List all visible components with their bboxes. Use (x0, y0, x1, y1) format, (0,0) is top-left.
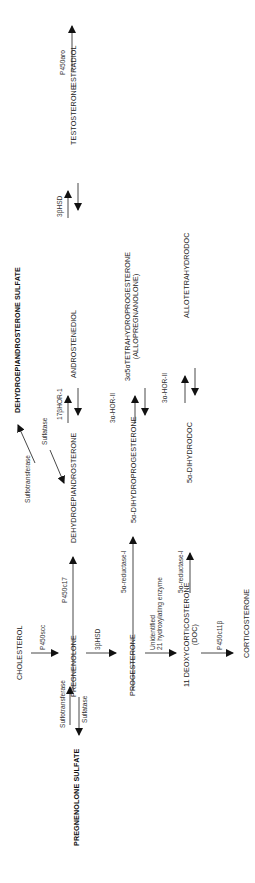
node-doc-line2: (DOC) (191, 582, 198, 687)
enzyme-3ahor-ii-prog: 3α-HOR-II (110, 393, 117, 423)
enzyme-unidentified-line2: 21 hydroxylating enzyme (157, 577, 164, 650)
node-estradiol: ESTRADIOL (70, 45, 77, 87)
node-progesterone: PROGESTERONE (129, 634, 136, 696)
steroid-pathway-diagram: CHOLESTEROL PREGNENOLONE PROGESTERONE 11… (0, 0, 255, 883)
enzyme-sulfatase-preg: Sulfatase (82, 696, 89, 724)
node-pregnenolone-sulfate: PREGNENOLONE SULFATE (73, 749, 80, 846)
arrows-layer (0, 0, 255, 883)
arrow-dheas-to-dhea (50, 450, 64, 483)
node-dihydroprogesterone: 5α-DIHYDROPROGESTERONE (130, 416, 137, 523)
node-corticosterone: CORTICOSTERONE (243, 589, 250, 658)
node-pregnenolone: PREGNENOLONE (70, 635, 77, 697)
enzyme-17bhor-1: 17βHOR-1 (57, 388, 64, 420)
enzyme-5a-reductase-doc: 5α-reductase-I (178, 550, 185, 593)
enzyme-p450aro: P450aro (60, 50, 67, 75)
node-dhea-sulfate: DEHYDROEPIANDROSTERONE SULFATE (14, 267, 21, 413)
node-allopregnanolone-line2: (ALLOPREGNANOLONE) (132, 252, 139, 381)
node-doc: 11 DEOXYCORTICOSTERONE (DOC) (183, 582, 198, 687)
enzyme-unidentified: Unidentified 21 hydroxylating enzyme (150, 577, 164, 650)
enzyme-p450scc: P450scc (40, 625, 47, 650)
enzyme-sulfotransferase-preg: Sulfotransferase (60, 680, 67, 728)
node-dhea: DEHYDROEPIANDROSTERONE (70, 433, 77, 543)
node-dihydrodoc: 5α-DIHYDRODOC (186, 422, 193, 483)
enzyme-3ahor-ii-doc: 3α-HOR-II (162, 373, 169, 403)
enzyme-p450c11b: P450c11β (217, 621, 224, 650)
node-androstenediol: ANDROSTENEDIOL (70, 310, 77, 378)
node-allopregnanolone: 3α5αTETRAHYDROPROGESTERONE (ALLOPREGNANO… (124, 252, 139, 381)
enzyme-3bhsd-2: 3βHSD (57, 196, 64, 217)
node-allopregnanolone-line1: 3α5αTETRAHYDROPROGESTERONE (124, 252, 131, 381)
enzyme-sulfatase-dhea: Sulfatase (42, 418, 49, 446)
enzyme-p450c17: P450c17 (62, 577, 69, 603)
node-doc-line1: 11 DEOXYCORTICOSTERONE (183, 582, 190, 687)
node-allotetrahydrodoc: ALLOTETRAHYDRODOC (183, 232, 190, 318)
node-cholesterol: CHOLESTEROL (16, 625, 23, 680)
enzyme-sulfotransferase-dhea: Sulfotransferase (25, 455, 32, 503)
enzyme-3bhsd-1: 3βHSD (95, 629, 102, 650)
node-testosterone: TESTOSTERONE (70, 85, 77, 145)
enzyme-5a-reductase-prog: 5α-reductase-I (121, 550, 128, 593)
